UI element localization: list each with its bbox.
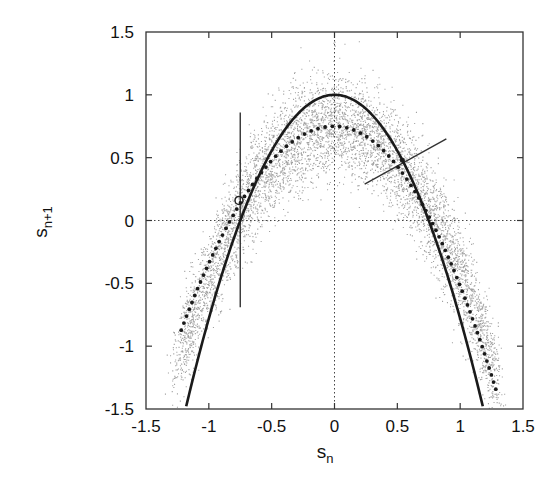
y-tick-label: -0.5 (105, 274, 134, 293)
y-tick-labels: -1.5-1-0.500.511.5 (105, 23, 134, 419)
x-tick-label: 0 (330, 417, 339, 436)
y-tick-label: 1.5 (110, 23, 134, 42)
x-tick-label: -1.5 (131, 417, 160, 436)
x-tick-label: -0.5 (257, 417, 286, 436)
scatter-cloud (165, 42, 506, 408)
x-tick-labels: -1.5-1-0.500.511.5 (131, 417, 534, 436)
x-axis-label: sn (317, 441, 334, 466)
y-tick-label: 0 (125, 212, 134, 231)
y-tick-label: -1.5 (105, 400, 134, 419)
y-tick-label: 1 (125, 86, 134, 105)
y-axis-label: sn+1 (30, 206, 55, 238)
x-tick-label: -1 (201, 417, 216, 436)
x-tick-label: 1.5 (511, 417, 535, 436)
zero-lines (146, 32, 523, 409)
y-tick-label: -1 (119, 337, 134, 356)
x-tick-label: 0.5 (386, 417, 410, 436)
chart: -1.5-1-0.500.511.5 -1.5-1-0.500.511.5 sn… (0, 0, 555, 491)
y-tick-label: 0.5 (110, 149, 134, 168)
x-tick-label: 1 (455, 417, 464, 436)
solid-parabola-line (186, 95, 483, 406)
